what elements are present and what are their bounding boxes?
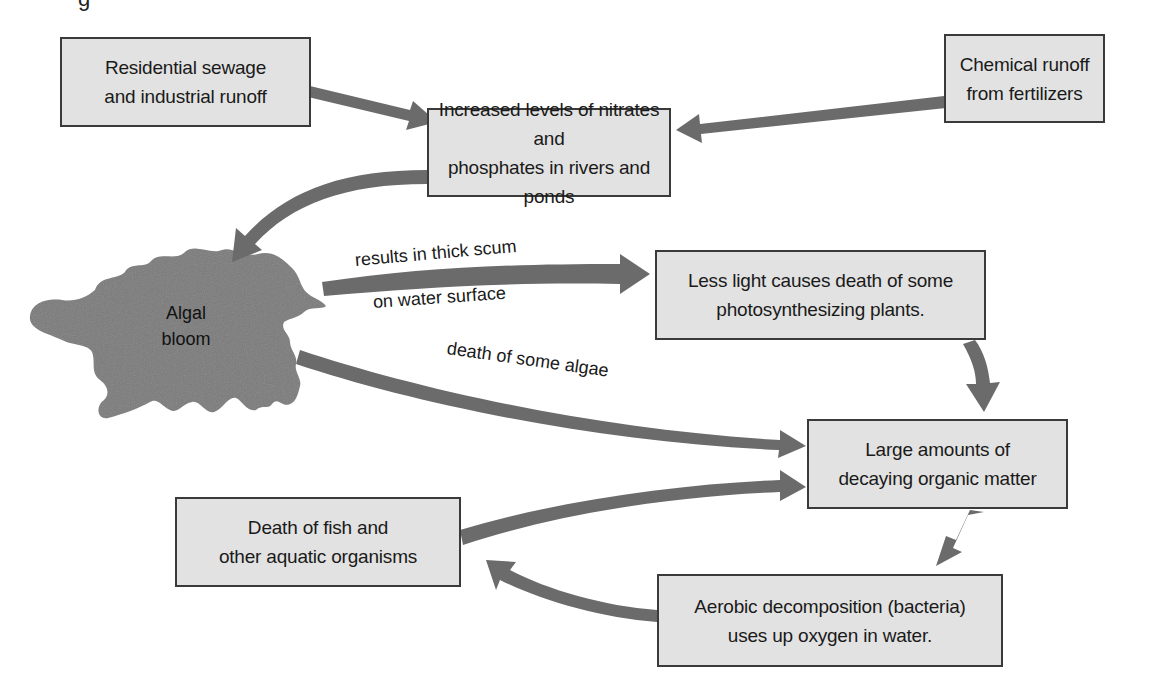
node-text-line1: Large amounts of [838,435,1036,464]
node-death-of-fish: Death of fish and other aquatic organism… [175,497,461,587]
algal-bloom-line1: Algal [166,303,206,323]
node-chemical-runoff: Chemical runoff from fertilizers [944,34,1105,123]
node-text-line1: Increased levels of nitrates and [429,95,669,153]
node-text-line2: other aquatic organisms [219,542,417,571]
arrow-residential-to-increased [308,86,437,130]
node-text-line2: decaying organic matter [838,464,1036,493]
node-residential-sewage: Residential sewage and industrial runoff [60,37,311,127]
arrow-less-light-to-large-amounts [963,340,1000,412]
arrow-chemical-to-increased [676,96,946,143]
node-increased-nutrients: Increased levels of nitrates and phospha… [427,108,671,197]
node-less-light: Less light causes death of some photosyn… [655,250,986,340]
node-text-line2: and industrial runoff [104,82,266,111]
algal-bloom-line2: bloom [161,329,210,349]
node-text-line1: Aerobic decomposition (bacteria) [694,592,965,621]
node-text-line1: Less light causes death of some [688,266,953,295]
node-large-amounts: Large amounts of decaying organic matter [807,419,1068,509]
arrow-aerobic-to-fish [486,560,657,622]
node-text-line1: Chemical runoff [960,50,1090,79]
arrow-large-amounts-to-aerobic [936,510,984,566]
node-aerobic-decomposition: Aerobic decomposition (bacteria) uses up… [657,574,1003,667]
algal-bloom-label: Algal bloom [146,300,226,352]
node-text-line1: Residential sewage [104,53,266,82]
node-text-line2: phosphates in rivers and ponds [429,153,669,211]
arrow-fish-to-large-amounts [460,470,806,545]
node-text-line2: uses up oxygen in water. [694,621,965,650]
eutrophication-diagram: g [0,0,1168,692]
node-text-line1: Death of fish and [219,513,417,542]
node-text-line2: photosynthesizing plants. [688,295,953,324]
node-text-line2: from fertilizers [960,79,1090,108]
